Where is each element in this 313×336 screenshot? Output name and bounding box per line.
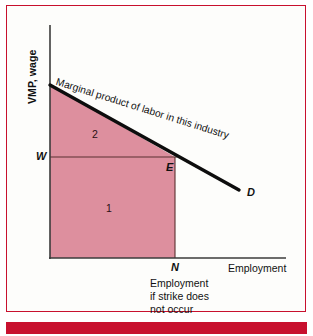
employment-caption: Employment if strike does not occur — [150, 277, 209, 315]
caption-line-3: not occur — [150, 303, 209, 316]
equilibrium-point-label: E — [166, 161, 173, 174]
region-2-label: 2 — [92, 128, 98, 140]
x-axis-label: Employment — [228, 262, 286, 274]
economics-figure: VMP, wage Employment W N E D Marginal pr… — [0, 0, 313, 336]
region-1-label: 1 — [106, 202, 112, 214]
caption-line-1: Employment — [150, 277, 209, 290]
bottom-accent-bar — [6, 322, 307, 334]
employment-tick-label: N — [171, 261, 179, 274]
demand-curve-end-label: D — [247, 186, 255, 199]
caption-line-2: if strike does — [150, 290, 209, 303]
wage-tick-label: W — [36, 150, 46, 163]
y-axis-label: VMP, wage — [26, 50, 38, 104]
region-1-shape — [50, 157, 175, 258]
